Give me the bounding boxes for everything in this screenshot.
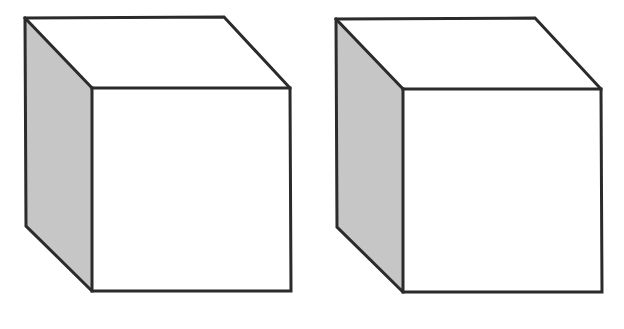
cube-right: [336, 18, 602, 292]
cube-left-front-face: [92, 88, 291, 291]
figure-canvas: [0, 0, 624, 329]
cubes-diagram: [0, 0, 624, 329]
cube-left: [25, 17, 291, 291]
cube-right-front-face: [403, 89, 602, 292]
